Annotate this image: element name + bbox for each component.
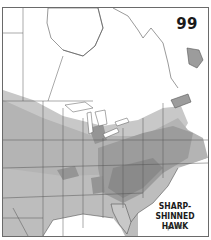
range-map-frame: 99 SHARP-SHINNED HAWK p. 98 (2, 7, 209, 237)
nova-scotia (171, 94, 191, 108)
map-number: 99 (176, 15, 198, 33)
lake-superior (65, 102, 93, 112)
hudson-bay (47, 8, 103, 56)
newfoundland (187, 48, 203, 68)
page-reference: p. 98 (139, 223, 209, 230)
species-name-line1: SHARP-SHINNED (144, 201, 205, 221)
lake-huron (95, 110, 107, 126)
